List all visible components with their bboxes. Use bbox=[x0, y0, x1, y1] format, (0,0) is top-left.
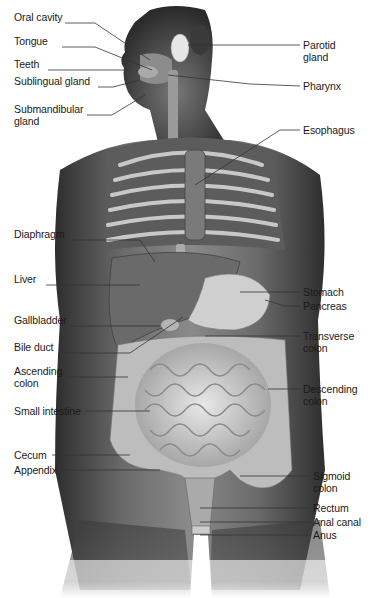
label-gallbladder: Gallbladder bbox=[14, 314, 67, 326]
label-esophagus: Esophagus bbox=[303, 124, 355, 136]
label-anus: Anus bbox=[313, 529, 337, 541]
label-cecum: Cecum bbox=[14, 449, 47, 461]
label-appendix: Appendix bbox=[14, 464, 57, 476]
label-oral-cavity: Oral cavity bbox=[14, 11, 63, 23]
head bbox=[121, 6, 230, 150]
label-submandibular-gland: Submandibular gland bbox=[14, 103, 83, 127]
label-teeth: Teeth bbox=[14, 58, 39, 70]
label-small-intestine: Small intestine bbox=[14, 405, 81, 417]
label-sigmoid-colon: Sigmoid colon bbox=[313, 470, 350, 494]
label-descending-colon: Descending colon bbox=[303, 383, 357, 407]
label-pancreas: Pancreas bbox=[303, 300, 347, 312]
small-intestine bbox=[135, 343, 271, 467]
label-diaphragm: Diaphragm bbox=[14, 228, 64, 240]
label-stomach: Stomach bbox=[303, 286, 344, 298]
label-sublingual-gland: Sublingual gland bbox=[14, 75, 90, 87]
label-ascending-colon: Ascending colon bbox=[14, 365, 62, 389]
label-parotid-gland: Parotid gland bbox=[303, 39, 336, 63]
digestive-system-diagram: Oral cavity Tongue Teeth Sublingual glan… bbox=[0, 0, 374, 598]
label-rectum: Rectum bbox=[313, 502, 349, 514]
label-transverse-colon: Transverse colon bbox=[303, 330, 354, 354]
label-tongue: Tongue bbox=[14, 35, 48, 47]
rib-cage bbox=[105, 138, 285, 257]
label-liver: Liver bbox=[14, 273, 36, 285]
label-anal-canal: Anal canal bbox=[313, 516, 361, 528]
label-pharynx: Pharynx bbox=[303, 80, 341, 92]
label-bile-duct: Bile duct bbox=[14, 341, 53, 353]
